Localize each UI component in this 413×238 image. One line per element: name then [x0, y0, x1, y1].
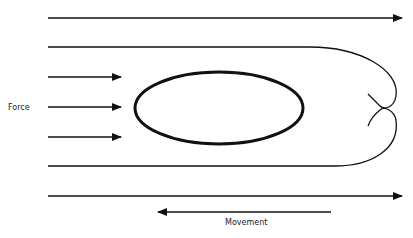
movement-label: Movement: [225, 218, 267, 227]
force-label: Force: [8, 103, 30, 112]
drag-force-diagram: [0, 0, 413, 238]
body-ellipse: [135, 72, 303, 144]
